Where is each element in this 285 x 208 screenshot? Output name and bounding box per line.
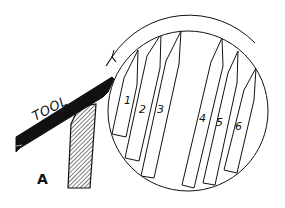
tip-label-3: 3 [157, 103, 164, 116]
rest-label: A [37, 171, 48, 187]
tip-label-6: 6 [235, 120, 242, 133]
tip-label-4: 4 [199, 112, 206, 125]
tool-rest [68, 104, 96, 188]
tip-label-2: 2 [139, 103, 146, 116]
tip-label-1: 1 [124, 94, 131, 107]
diagram-canvas: 1 2 3 4 5 6 TOOL A [0, 0, 285, 208]
magnified-inset: 1 2 3 4 5 6 [108, 31, 268, 191]
tip-label-5: 5 [216, 116, 223, 129]
diagram-svg: 1 2 3 4 5 6 TOOL A [0, 0, 285, 208]
